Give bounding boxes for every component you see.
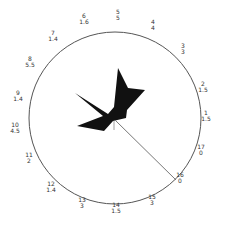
- direction-value: 1.5: [109, 208, 123, 214]
- direction-label-12: 121.4: [44, 181, 58, 193]
- direction-label-9: 91.4: [11, 90, 25, 102]
- direction-value: 3: [145, 200, 159, 206]
- direction-value: 1.5: [196, 87, 210, 93]
- direction-value: 3: [75, 203, 89, 209]
- direction-label-13: 133: [75, 197, 89, 209]
- direction-label-11: 112: [22, 152, 36, 164]
- direction-label-7: 71.4: [46, 30, 60, 42]
- direction-value: 3: [176, 49, 190, 55]
- direction-value: 2: [22, 158, 36, 164]
- direction-value: 1.5: [199, 116, 213, 122]
- direction-value: 4.5: [8, 128, 22, 134]
- direction-label-16: 160: [173, 172, 187, 184]
- direction-label-15: 153: [145, 194, 159, 206]
- direction-label-14: 141.5: [109, 202, 123, 214]
- direction-label-2: 21.5: [196, 81, 210, 93]
- rose-shape: [75, 68, 145, 131]
- pointer-line: [115, 120, 176, 180]
- direction-label-1: 11.5: [199, 110, 213, 122]
- direction-value: 5: [111, 15, 125, 21]
- direction-label-4: 44: [146, 19, 160, 31]
- direction-value: 4: [146, 25, 160, 31]
- rose-diagram: [0, 0, 227, 225]
- direction-value: 1.4: [11, 96, 25, 102]
- direction-label-17: 170: [194, 144, 208, 156]
- direction-label-5: 55: [111, 9, 125, 21]
- direction-label-8: 85.5: [23, 56, 37, 68]
- direction-label-3: 33: [176, 43, 190, 55]
- direction-value: 1.6: [77, 19, 91, 25]
- direction-label-10: 104.5: [8, 122, 22, 134]
- direction-value: 0: [173, 178, 187, 184]
- direction-label-6: 61.6: [77, 13, 91, 25]
- direction-value: 5.5: [23, 62, 37, 68]
- direction-value: 0: [194, 150, 208, 156]
- direction-value: 1.4: [44, 187, 58, 193]
- direction-value: 1.4: [46, 36, 60, 42]
